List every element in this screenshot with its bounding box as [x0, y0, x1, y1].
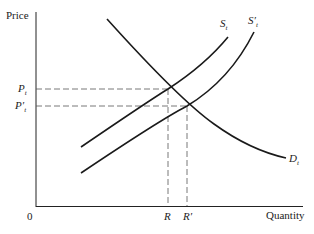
supply-shifted-curve [81, 32, 254, 173]
demand-label: Dt [289, 153, 299, 167]
supply-label: St [220, 18, 227, 32]
x-axis-label: Quantity [266, 210, 305, 221]
price-label-p: Pt [18, 83, 27, 97]
quantity-label-r-prime: R′ [183, 211, 192, 222]
supply-shifted-label: S′t [248, 15, 258, 29]
price-label-p-prime: P′t [15, 100, 26, 114]
quantity-label-r: R [164, 211, 171, 222]
origin-label: 0 [27, 211, 33, 222]
y-axis-label: Price [6, 10, 29, 21]
supply-demand-diagram [0, 0, 314, 234]
demand-curve [107, 19, 286, 158]
